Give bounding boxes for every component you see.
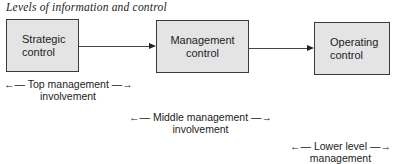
diagram-title: Levels of information and control: [6, 1, 167, 13]
involvement-line1: ←— Lower level —→: [288, 140, 393, 152]
box-label-line1: Operating: [330, 36, 378, 49]
involvement-line2: involvement: [4, 90, 132, 102]
arrow-line: [79, 46, 149, 47]
middle-management-involvement: ←— Middle management —→ involvement: [128, 111, 273, 135]
involvement-line1: ←— Top management —→: [4, 78, 132, 90]
box-label-line2: control: [330, 49, 378, 62]
involvement-line2: management: [288, 152, 393, 164]
involvement-line1: ←— Middle management —→: [128, 111, 273, 123]
top-management-involvement: ←— Top management —→ involvement: [4, 78, 132, 102]
operating-control-box: Operating control: [314, 22, 390, 75]
management-control-box: Management control: [156, 20, 249, 73]
arrow-right-icon: [149, 43, 156, 49]
box-label-line1: Strategic: [22, 33, 65, 46]
strategic-control-box: Strategic control: [6, 19, 79, 72]
lower-level-management: ←— Lower level —→ management: [288, 140, 393, 164]
box-label-line1: Management: [170, 34, 234, 47]
box-label-line2: control: [170, 47, 234, 60]
arrow-right-icon: [307, 45, 314, 51]
involvement-line2: involvement: [128, 123, 273, 135]
box-label-line2: control: [22, 46, 65, 59]
arrow-line: [249, 48, 307, 49]
